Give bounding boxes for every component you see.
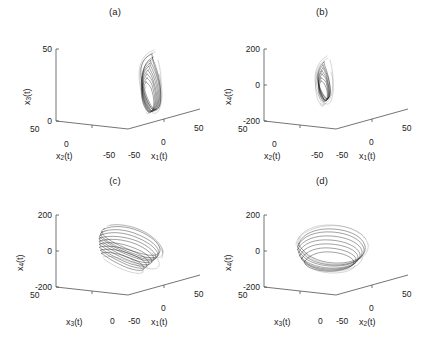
panel-d-z-axis-base: x (223, 267, 233, 272)
panel-b-ytick-near: -50 (311, 151, 323, 160)
panel-b-xtick-far: 50 (402, 124, 411, 133)
panel-d-axes (264, 215, 408, 295)
panel-d: (d) (211, 169, 421, 337)
panel-b-trajectory (315, 56, 333, 106)
panel-c-z-axis-title: x4(t) (15, 254, 25, 271)
panel-a: (a) (0, 0, 210, 168)
panel-a-z-axis-base: x (22, 101, 32, 106)
panel-a-z-axis-title: x3(t) (22, 88, 32, 105)
panel-d-xtick-far: 50 (402, 290, 411, 299)
panel-a-ytick-mid: 0 (64, 140, 69, 149)
panel-c-trajectory (99, 224, 163, 273)
panel-d-z-axis-title: x4(t) (223, 254, 233, 271)
panel-a-axes (56, 49, 200, 129)
panel-c-ytick-far: 50 (30, 291, 39, 300)
panel-b-y-axis-tail: (t) (272, 151, 281, 161)
panel-d-y-axis-tail: (t) (282, 317, 291, 327)
panel-b-ztick-top: 200 (227, 45, 260, 54)
panel-b-x-axis-tail: (t) (367, 151, 376, 161)
panel-d-x-axis-title: x2(t) (359, 318, 376, 328)
panel-b-z-axis-tail: (t) (223, 88, 233, 97)
panel-b-z-axis-sub: 4 (226, 97, 233, 101)
panel-c-xtick-mid: 0 (161, 304, 166, 313)
panel-a-z-axis-tail: (t) (22, 88, 32, 97)
panel-c-z-axis-tail: (t) (15, 254, 25, 263)
panel-c-ztick-top: 200 (19, 211, 52, 220)
panel-c-x-axis-tail: (t) (159, 317, 168, 327)
panel-c: (c) (0, 169, 210, 337)
panel-d-z-axis-sub: 4 (226, 263, 233, 267)
panel-d-trajectory (296, 225, 368, 273)
panel-c-z-axis-sub: 4 (18, 263, 25, 267)
panel-d-y-axis-title: x3(t) (274, 318, 291, 328)
panel-a-plot (0, 0, 210, 168)
panel-b-axes (264, 49, 408, 129)
panel-c-xtick-near: -50 (128, 317, 140, 326)
panel-b-z-axis-title: x4(t) (223, 88, 233, 105)
panel-a-ztick-top: 50 (26, 45, 52, 54)
panel-d-x-axis-tail: (t) (367, 317, 376, 327)
panel-d-xtick-mid: 0 (369, 304, 374, 313)
panel-c-ytick-near: 0 (110, 317, 115, 326)
panel-c-x-axis-title: x1(t) (151, 318, 168, 328)
panel-d-ztick-top: 200 (227, 211, 260, 220)
panel-b-y-axis-title: x2(t) (264, 152, 281, 162)
panel-a-ytick-near: -50 (103, 151, 115, 160)
panel-a-y-axis-title: x2(t) (56, 152, 73, 162)
panel-a-xtick-mid: 0 (161, 138, 166, 147)
panel-a-xtick-near: -50 (128, 151, 140, 160)
panel-c-y-axis-title: x3(t) (66, 318, 83, 328)
panel-d-ytick-far: 50 (238, 291, 247, 300)
panel-a-trajectory (139, 50, 162, 114)
panel-b-ytick-far: 50 (238, 125, 247, 134)
panel-c-xtick-far: 50 (194, 290, 203, 299)
panel-d-z-axis-tail: (t) (223, 254, 233, 263)
panel-d-ytick-near: 0 (318, 317, 323, 326)
panel-a-ytick-far: 50 (30, 125, 39, 134)
panel-a-xtick-far: 50 (194, 124, 203, 133)
panel-b-z-axis-base: x (223, 101, 233, 106)
panel-a-y-axis-tail: (t) (64, 151, 73, 161)
panel-c-z-axis-base: x (15, 267, 25, 272)
panel-b-xtick-near: -50 (336, 151, 348, 160)
panel-a-z-axis-sub: 3 (25, 97, 32, 101)
panel-a-x-axis-tail: (t) (159, 151, 168, 161)
panel-b-xtick-mid: 0 (369, 138, 374, 147)
panel-d-xtick-near: -50 (336, 317, 348, 326)
panel-b-x-axis-title: x1(t) (359, 152, 376, 162)
figure-canvas: (a) (0, 0, 421, 337)
panel-a-x-axis-title: x1(t) (151, 152, 168, 162)
panel-b-ytick-mid: 0 (272, 140, 277, 149)
panel-c-y-axis-tail: (t) (74, 317, 83, 327)
panel-b: (b) (211, 0, 421, 168)
